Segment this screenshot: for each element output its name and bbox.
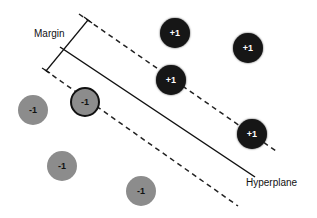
margin-arrow-cap-bottom xyxy=(42,68,50,73)
positive-point: +1 xyxy=(160,18,190,48)
hyperplane-label: Hyperplane xyxy=(246,177,297,188)
positive-support-vector: +1 xyxy=(156,65,186,95)
negative-point: -1 xyxy=(126,176,156,206)
negative-point: -1 xyxy=(47,151,77,181)
positive-point: +1 xyxy=(233,33,263,63)
positive-support-vector: +1 xyxy=(237,119,267,149)
margin-arrow-cap-top xyxy=(84,17,92,23)
margin-label: Margin xyxy=(34,28,65,39)
negative-support-vector: -1 xyxy=(70,87,100,117)
negative-point: -1 xyxy=(18,95,48,125)
